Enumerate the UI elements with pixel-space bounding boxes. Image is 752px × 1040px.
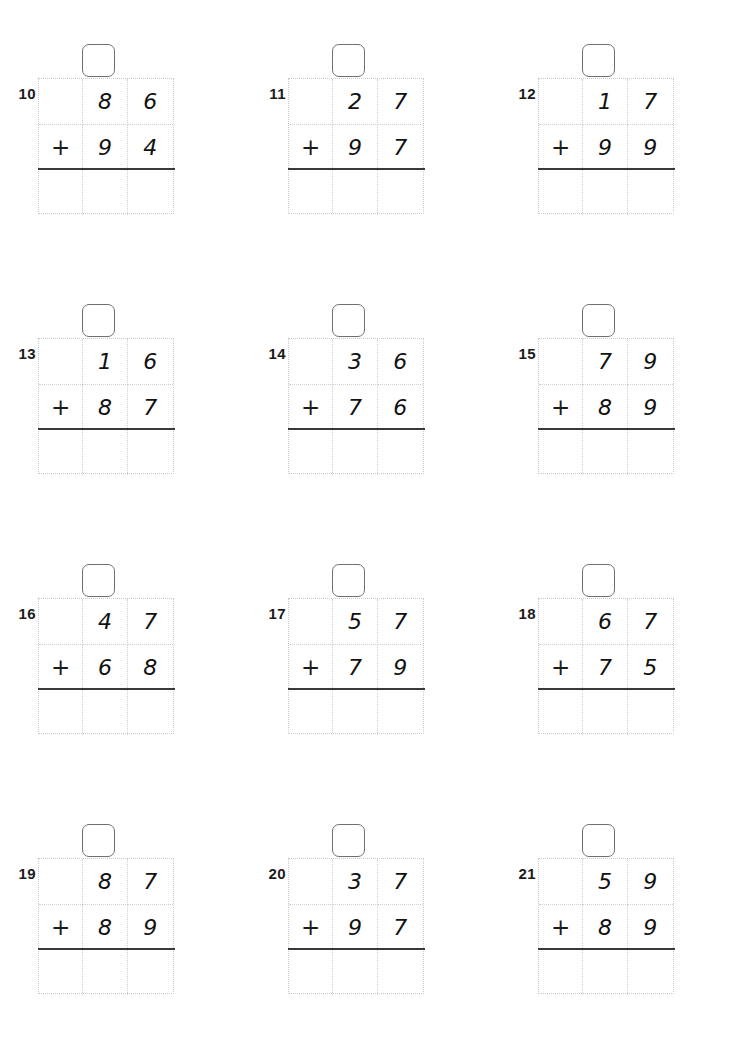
answer-row — [289, 690, 423, 735]
carry-box[interactable] — [582, 564, 615, 597]
answer-hundreds-cell[interactable] — [539, 170, 583, 215]
problem-row: 1316+871436+761579+89 — [0, 302, 752, 562]
top-hundreds-cell — [289, 339, 333, 385]
answer-tens-cell[interactable] — [583, 430, 627, 475]
answer-ones-cell[interactable] — [128, 170, 173, 215]
answer-hundreds-cell[interactable] — [289, 430, 333, 475]
carry-box[interactable] — [82, 44, 115, 77]
answer-hundreds-cell[interactable] — [289, 950, 333, 995]
operator-cell: + — [289, 645, 333, 690]
addition-problem: 1217+99 — [500, 42, 750, 282]
bottom-tens-cell: 8 — [583, 905, 627, 950]
answer-ones-cell[interactable] — [628, 170, 673, 215]
answer-tens-cell[interactable] — [583, 950, 627, 995]
addition-grid: 86+94 — [38, 78, 174, 214]
answer-hundreds-cell[interactable] — [539, 430, 583, 475]
answer-hundreds-cell[interactable] — [289, 170, 333, 215]
addition-problem: 2159+89 — [500, 822, 750, 1040]
problem-number: 20 — [250, 866, 286, 881]
carry-box[interactable] — [332, 44, 365, 77]
top-hundreds-cell — [539, 339, 583, 385]
carry-box[interactable] — [82, 824, 115, 857]
top-hundreds-cell — [289, 599, 333, 645]
carry-box[interactable] — [332, 824, 365, 857]
bottom-ones-cell: 7 — [378, 125, 423, 170]
addition-grid: 59+89 — [538, 858, 674, 994]
top-tens-cell: 6 — [583, 599, 627, 645]
addend-row-top: 47 — [39, 599, 173, 645]
bottom-ones-cell: 8 — [128, 645, 173, 690]
answer-ones-cell[interactable] — [628, 950, 673, 995]
carry-box[interactable] — [332, 304, 365, 337]
answer-tens-cell[interactable] — [83, 430, 127, 475]
answer-tens-cell[interactable] — [333, 690, 377, 735]
answer-tens-cell[interactable] — [83, 950, 127, 995]
answer-row — [39, 690, 173, 735]
carry-box[interactable] — [82, 564, 115, 597]
addition-grid: 27+97 — [288, 78, 424, 214]
answer-hundreds-cell[interactable] — [289, 690, 333, 735]
addend-row-top: 87 — [39, 859, 173, 905]
bottom-ones-cell: 9 — [628, 385, 673, 430]
bottom-tens-cell: 7 — [333, 645, 377, 690]
addition-problem: 1987+89 — [0, 822, 250, 1040]
addend-row-top: 86 — [39, 79, 173, 125]
top-tens-cell: 2 — [333, 79, 377, 125]
answer-ones-cell[interactable] — [378, 950, 423, 995]
addition-problem: 2037+97 — [250, 822, 500, 1040]
bottom-tens-cell: 6 — [83, 645, 127, 690]
answer-hundreds-cell[interactable] — [39, 950, 83, 995]
bottom-tens-cell: 7 — [333, 385, 377, 430]
addition-grid: 57+79 — [288, 598, 424, 734]
carry-box[interactable] — [582, 44, 615, 77]
answer-hundreds-cell[interactable] — [539, 950, 583, 995]
answer-hundreds-cell[interactable] — [39, 170, 83, 215]
carry-box[interactable] — [82, 304, 115, 337]
addend-row-top: 57 — [289, 599, 423, 645]
problem-number: 16 — [0, 606, 36, 621]
answer-ones-cell[interactable] — [378, 690, 423, 735]
operator-cell: + — [39, 385, 83, 430]
bottom-tens-cell: 9 — [333, 125, 377, 170]
carry-box[interactable] — [332, 564, 365, 597]
answer-ones-cell[interactable] — [128, 430, 173, 475]
answer-tens-cell[interactable] — [83, 170, 127, 215]
problem-number: 11 — [250, 86, 286, 101]
addend-row-bottom: +68 — [39, 645, 173, 690]
top-tens-cell: 3 — [333, 339, 377, 385]
addend-row-top: 16 — [39, 339, 173, 385]
answer-ones-cell[interactable] — [128, 950, 173, 995]
answer-tens-cell[interactable] — [333, 170, 377, 215]
answer-hundreds-cell[interactable] — [539, 690, 583, 735]
top-ones-cell: 9 — [628, 859, 673, 905]
answer-tens-cell[interactable] — [333, 430, 377, 475]
addend-row-top: 36 — [289, 339, 423, 385]
answer-tens-cell[interactable] — [83, 690, 127, 735]
top-hundreds-cell — [289, 79, 333, 125]
answer-tens-cell[interactable] — [583, 690, 627, 735]
top-hundreds-cell — [39, 79, 83, 125]
answer-ones-cell[interactable] — [378, 170, 423, 215]
carry-box[interactable] — [582, 304, 615, 337]
carry-box[interactable] — [582, 824, 615, 857]
top-tens-cell: 5 — [583, 859, 627, 905]
bottom-ones-cell: 9 — [128, 905, 173, 950]
addend-row-bottom: +89 — [539, 905, 673, 950]
answer-ones-cell[interactable] — [378, 430, 423, 475]
answer-row — [289, 430, 423, 475]
addition-problem: 1867+75 — [500, 562, 750, 802]
answer-rule — [288, 688, 425, 690]
answer-tens-cell[interactable] — [333, 950, 377, 995]
answer-ones-cell[interactable] — [128, 690, 173, 735]
answer-rule — [38, 428, 175, 430]
answer-ones-cell[interactable] — [628, 690, 673, 735]
addend-row-top: 37 — [289, 859, 423, 905]
answer-rule — [288, 948, 425, 950]
answer-hundreds-cell[interactable] — [39, 430, 83, 475]
addend-row-bottom: +87 — [39, 385, 173, 430]
answer-tens-cell[interactable] — [583, 170, 627, 215]
top-hundreds-cell — [39, 859, 83, 905]
answer-ones-cell[interactable] — [628, 430, 673, 475]
operator-cell: + — [539, 125, 583, 170]
answer-hundreds-cell[interactable] — [39, 690, 83, 735]
